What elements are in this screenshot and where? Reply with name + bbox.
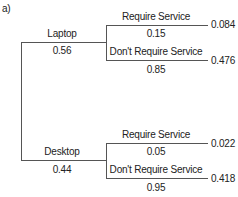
laptop-prob: 0.56 <box>53 45 72 56</box>
laptop-require-line <box>106 25 208 26</box>
desktop-prob: 0.44 <box>53 164 72 175</box>
laptop-branch-line <box>21 42 107 43</box>
desktop-norequire-joint: 0.418 <box>211 173 235 184</box>
root-trunk-line <box>21 42 22 161</box>
desktop-require-label: Require Service <box>122 129 190 140</box>
desktop-norequire-line <box>106 178 208 179</box>
desktop-norequire-label: Don't Require Service <box>110 164 203 175</box>
desktop-split-line <box>106 143 107 179</box>
laptop-norequire-line <box>106 60 208 61</box>
laptop-label: Laptop <box>47 28 76 39</box>
desktop-require-line <box>106 143 208 144</box>
laptop-norequire-joint: 0.476 <box>211 55 235 66</box>
laptop-split-line <box>106 25 107 61</box>
desktop-label: Desktop <box>44 146 79 157</box>
desktop-require-joint: 0.022 <box>211 138 235 149</box>
laptop-norequire-label: Don't Require Service <box>110 46 203 57</box>
desktop-require-prob: 0.05 <box>147 146 166 157</box>
desktop-branch-line <box>21 160 107 161</box>
part-label: a) <box>2 3 11 14</box>
desktop-norequire-prob: 0.95 <box>147 182 166 193</box>
laptop-require-prob: 0.15 <box>147 28 166 39</box>
laptop-norequire-prob: 0.85 <box>147 64 166 75</box>
laptop-require-label: Require Service <box>122 11 190 22</box>
laptop-require-joint: 0.084 <box>211 19 235 30</box>
